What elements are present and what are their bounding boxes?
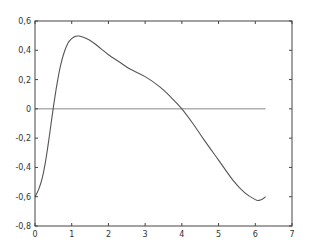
x-tick-label: 3 xyxy=(143,230,148,239)
y-axis-ticks: 0,60,40,20-0,2-0,4-0,6-0,8 xyxy=(15,17,292,231)
y-tick-label: 0,4 xyxy=(18,46,31,55)
x-tick-label: 1 xyxy=(69,230,74,239)
curve-path xyxy=(35,36,266,201)
y-tick-label: 0 xyxy=(26,105,31,114)
x-axis-ticks: 01234567 xyxy=(32,21,294,239)
y-tick-label: -0,4 xyxy=(15,163,31,172)
x-tick-label: 4 xyxy=(179,230,184,239)
x-tick-label: 7 xyxy=(289,230,294,239)
x-tick-label: 6 xyxy=(253,230,258,239)
y-tick-label: 0,6 xyxy=(18,17,31,26)
plot-frame xyxy=(35,21,292,226)
y-tick-label: 0,2 xyxy=(18,76,31,85)
x-tick-label: 0 xyxy=(32,230,37,239)
y-tick-label: -0,2 xyxy=(15,134,31,143)
data-curve xyxy=(35,36,266,201)
x-tick-label: 5 xyxy=(216,230,221,239)
y-tick-label: -0,6 xyxy=(15,193,31,202)
line-chart: 01234567 0,60,40,20-0,2-0,4-0,6-0,8 xyxy=(0,0,309,248)
y-tick-label: -0,8 xyxy=(15,222,31,231)
x-tick-label: 2 xyxy=(106,230,111,239)
